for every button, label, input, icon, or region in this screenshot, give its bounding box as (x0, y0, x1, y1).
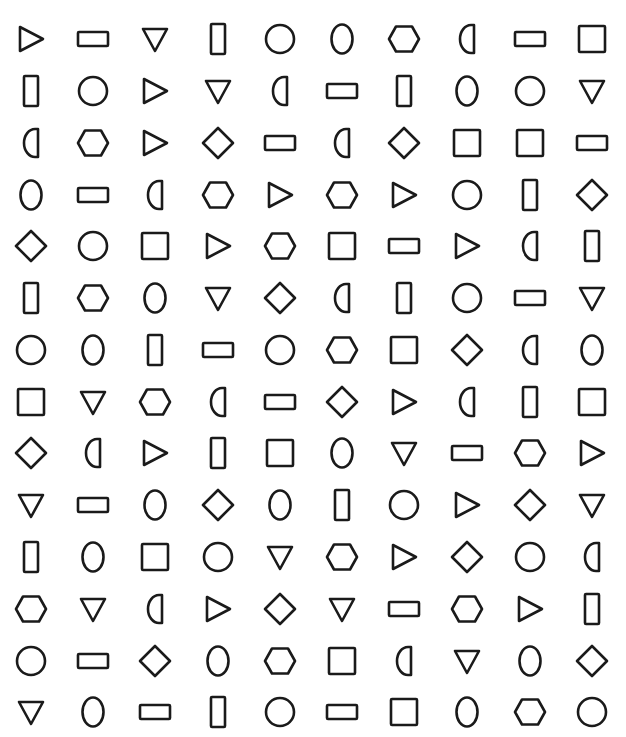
vertical-rectangle-icon (322, 485, 362, 525)
triangle-right-icon (384, 537, 424, 577)
hexagon-icon (260, 226, 300, 266)
hexagon-icon (198, 175, 238, 215)
half-circle-icon (11, 123, 51, 163)
oval-icon (198, 641, 238, 681)
triangle-down-icon (198, 278, 238, 318)
diamond-icon (11, 433, 51, 473)
vertical-rectangle-icon (384, 71, 424, 111)
vertical-rectangle-icon (510, 382, 550, 422)
square-icon (510, 123, 550, 163)
hexagon-icon (322, 330, 362, 370)
horizontal-rectangle-icon (73, 485, 113, 525)
vertical-rectangle-icon (510, 175, 550, 215)
square-icon (384, 330, 424, 370)
square-icon (384, 692, 424, 732)
diamond-icon (572, 641, 612, 681)
horizontal-rectangle-icon (73, 19, 113, 59)
half-circle-icon (322, 278, 362, 318)
hexagon-icon (322, 537, 362, 577)
half-circle-icon (447, 19, 487, 59)
half-circle-icon (73, 433, 113, 473)
triangle-right-icon (447, 226, 487, 266)
hexagon-icon (73, 123, 113, 163)
hexagon-icon (322, 175, 362, 215)
half-circle-icon (322, 123, 362, 163)
diamond-icon (384, 123, 424, 163)
triangle-right-icon (198, 589, 238, 629)
hexagon-icon (384, 19, 424, 59)
vertical-rectangle-icon (198, 433, 238, 473)
triangle-right-icon (135, 433, 175, 473)
circle-icon (510, 537, 550, 577)
diamond-icon (572, 175, 612, 215)
triangle-right-icon (510, 589, 550, 629)
horizontal-rectangle-icon (510, 19, 550, 59)
oval-icon (73, 330, 113, 370)
triangle-down-icon (73, 382, 113, 422)
diamond-icon (322, 382, 362, 422)
horizontal-rectangle-icon (260, 382, 300, 422)
oval-icon (447, 692, 487, 732)
vertical-rectangle-icon (198, 692, 238, 732)
circle-icon (447, 278, 487, 318)
horizontal-rectangle-icon (73, 175, 113, 215)
half-circle-icon (260, 71, 300, 111)
oval-icon (260, 485, 300, 525)
oval-icon (135, 485, 175, 525)
triangle-down-icon (198, 71, 238, 111)
half-circle-icon (135, 589, 175, 629)
half-circle-icon (572, 537, 612, 577)
triangle-down-icon (572, 71, 612, 111)
square-icon (447, 123, 487, 163)
square-icon (135, 537, 175, 577)
oval-icon (11, 175, 51, 215)
triangle-right-icon (198, 226, 238, 266)
triangle-down-icon (447, 641, 487, 681)
square-icon (260, 433, 300, 473)
vertical-rectangle-icon (198, 19, 238, 59)
vertical-rectangle-icon (135, 330, 175, 370)
horizontal-rectangle-icon (322, 71, 362, 111)
triangle-down-icon (73, 589, 113, 629)
triangle-right-icon (447, 485, 487, 525)
diamond-icon (260, 589, 300, 629)
circle-icon (198, 537, 238, 577)
triangle-down-icon (11, 692, 51, 732)
horizontal-rectangle-icon (135, 692, 175, 732)
horizontal-rectangle-icon (572, 123, 612, 163)
triangle-down-icon (572, 278, 612, 318)
hexagon-icon (135, 382, 175, 422)
oval-icon (322, 19, 362, 59)
vertical-rectangle-icon (11, 537, 51, 577)
triangle-down-icon (11, 485, 51, 525)
half-circle-icon (198, 382, 238, 422)
hexagon-icon (447, 589, 487, 629)
circle-icon (384, 485, 424, 525)
circle-icon (260, 692, 300, 732)
vertical-rectangle-icon (11, 278, 51, 318)
half-circle-icon (135, 175, 175, 215)
square-icon (322, 226, 362, 266)
square-icon (572, 382, 612, 422)
horizontal-rectangle-icon (510, 278, 550, 318)
vertical-rectangle-icon (384, 278, 424, 318)
triangle-right-icon (135, 71, 175, 111)
triangle-down-icon (572, 485, 612, 525)
half-circle-icon (447, 382, 487, 422)
diamond-icon (260, 278, 300, 318)
oval-icon (510, 641, 550, 681)
hexagon-icon (73, 278, 113, 318)
triangle-down-icon (260, 537, 300, 577)
diamond-icon (135, 641, 175, 681)
half-circle-icon (510, 330, 550, 370)
square-icon (322, 641, 362, 681)
horizontal-rectangle-icon (447, 433, 487, 473)
diamond-icon (198, 123, 238, 163)
vertical-rectangle-icon (572, 589, 612, 629)
oval-icon (135, 278, 175, 318)
circle-icon (510, 71, 550, 111)
triangle-down-icon (322, 589, 362, 629)
horizontal-rectangle-icon (73, 641, 113, 681)
diamond-icon (11, 226, 51, 266)
triangle-right-icon (572, 433, 612, 473)
